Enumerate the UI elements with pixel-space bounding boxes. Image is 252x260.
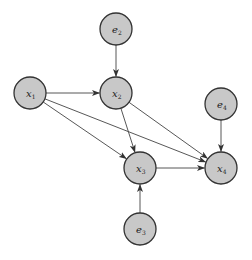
node-e3: e3 bbox=[124, 213, 156, 245]
edge-x2-to-x4 bbox=[129, 102, 208, 158]
edge-x2-to-x3 bbox=[121, 108, 135, 152]
causal-graph-diagram: e2x1x2e4x3x4e3 bbox=[0, 0, 252, 260]
node-e2: e2 bbox=[100, 13, 132, 45]
nodes-layer: e2x1x2e4x3x4e3 bbox=[14, 13, 237, 245]
edge-x1-to-x4 bbox=[45, 99, 206, 162]
node-x1: x1 bbox=[14, 77, 46, 109]
node-e4: e4 bbox=[205, 88, 237, 120]
edge-x1-to-x3 bbox=[43, 102, 126, 159]
edges-layer bbox=[43, 45, 221, 213]
node-x4: x4 bbox=[205, 152, 237, 184]
node-x3: x3 bbox=[124, 152, 156, 184]
graph-canvas: e2x1x2e4x3x4e3 bbox=[0, 0, 252, 260]
node-x2: x2 bbox=[100, 77, 132, 109]
